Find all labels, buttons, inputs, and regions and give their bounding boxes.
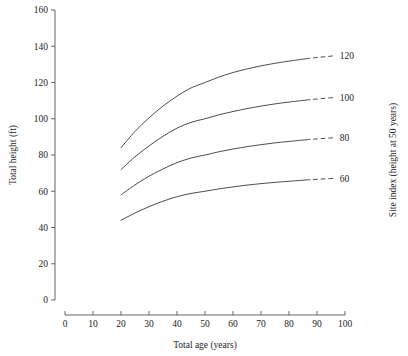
x-tick-label: 0 [63,319,68,329]
site-index-label-60: 60 [340,174,350,184]
y-tick-label: 60 [39,187,49,197]
x-tick-label: 100 [338,319,353,329]
y-axis: 020406080100120140160 [34,5,55,305]
x-tick-label: 50 [200,319,210,329]
y-axis-title: Total height (ft) [8,125,19,185]
x-tick-label: 60 [228,319,238,329]
y-tick-label: 100 [34,114,49,124]
y-tick-label: 80 [39,150,49,160]
x-tick-label: 40 [172,319,182,329]
y-tick-label: 120 [34,78,49,88]
x-tick-label: 10 [88,319,98,329]
curve-solid-si-80 [121,140,306,195]
y-tick-label: 0 [43,295,48,305]
x-tick-label: 20 [116,319,126,329]
y-tick-label: 40 [39,223,49,233]
chart-canvas: 020406080100120140160 010203040506070809… [0,0,408,356]
site-index-label-80: 80 [340,133,350,143]
site-index-labels-group: 1201008060 [340,51,355,184]
y-tick-label: 160 [34,5,49,15]
y-tick-label: 20 [39,259,49,269]
site-index-label-120: 120 [340,51,355,61]
x-axis-title: Total age (years) [173,340,237,351]
curve-dashed-si-120 [306,56,334,59]
curve-solid-si-100 [121,100,306,169]
x-tick-label: 70 [256,319,266,329]
site-index-chart: 020406080100120140160 010203040506070809… [0,0,408,356]
curve-dashed-si-80 [306,138,334,140]
curve-dashed-si-100 [306,98,334,101]
x-axis: 0102030405060708090100 [63,311,353,329]
curve-dashed-si-60 [306,178,334,180]
secondary-axis-title: Site index (height at 50 years) [388,103,399,217]
site-index-label-100: 100 [340,93,355,103]
y-tick-label: 140 [34,42,49,52]
x-tick-label: 90 [312,319,322,329]
curve-series-group [121,56,334,220]
x-tick-label: 30 [144,319,154,329]
x-tick-label: 80 [284,319,294,329]
curve-solid-si-60 [121,180,306,220]
